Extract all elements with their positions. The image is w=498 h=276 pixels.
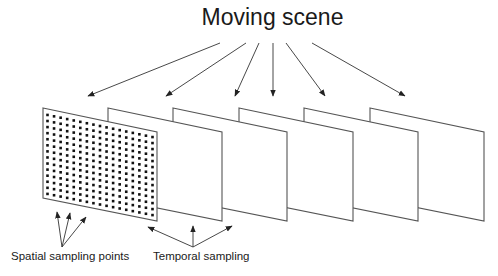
sampling-dot <box>53 188 56 191</box>
sampling-dot <box>66 130 69 133</box>
sampling-dot <box>112 164 115 167</box>
sampling-dot <box>59 159 62 162</box>
sampling-dot <box>145 212 148 215</box>
diagram-canvas <box>0 0 498 276</box>
sampling-dot <box>92 166 95 169</box>
sampling-dot <box>132 198 135 201</box>
sampling-dot <box>53 151 56 154</box>
sampling-dot <box>92 172 95 175</box>
sampling-dot <box>66 154 69 157</box>
sampling-dot <box>125 184 128 187</box>
sampling-dot <box>132 162 135 165</box>
sampling-dot <box>151 214 154 217</box>
sampling-dot <box>99 167 102 170</box>
sampling-dot <box>125 160 128 163</box>
sampling-dot <box>53 194 56 197</box>
sampling-dot <box>53 127 56 130</box>
sampling-dot <box>138 205 141 208</box>
sampling-dot <box>145 134 148 137</box>
sampling-dot <box>66 136 69 139</box>
sampling-dot <box>151 196 154 199</box>
sampling-dot <box>112 170 115 173</box>
sampling-dot <box>105 132 108 135</box>
sampling-dot <box>72 198 75 201</box>
sampling-dot <box>59 195 62 198</box>
sampling-dot <box>118 201 121 204</box>
sampling-dot <box>105 186 108 189</box>
sampling-dot <box>79 133 82 136</box>
sampling-dot <box>138 199 141 202</box>
sampling-dot <box>92 129 95 132</box>
sampling-dot <box>59 141 62 144</box>
sampling-dot <box>86 122 89 125</box>
sampling-dot <box>99 131 102 134</box>
sampling-dot <box>79 163 82 166</box>
sampling-dot <box>138 169 141 172</box>
sampling-dot <box>46 114 49 117</box>
sampling-dot <box>112 152 115 155</box>
sampling-dot <box>86 195 89 198</box>
sampling-dot <box>138 193 141 196</box>
sampling-dot <box>72 156 75 159</box>
sampling-dot <box>72 131 75 134</box>
sampling-dot <box>99 191 102 194</box>
sampling-dot <box>145 170 148 173</box>
sampling-dot <box>105 192 108 195</box>
sampling-dot <box>46 168 49 171</box>
sampling-dot <box>138 187 141 190</box>
sampling-dot <box>118 189 121 192</box>
sampling-dot <box>53 170 56 173</box>
sampling-dot <box>72 186 75 189</box>
sampling-dot <box>79 121 82 124</box>
sampling-dot <box>151 166 154 169</box>
sampling-dot <box>66 197 69 200</box>
sampling-dot <box>59 122 62 125</box>
sampling-dot <box>138 145 141 148</box>
sampling-dot <box>53 182 56 185</box>
sampling-dot <box>79 157 82 160</box>
sampling-dot <box>72 180 75 183</box>
sampling-dot <box>59 153 62 156</box>
sampling-dot <box>72 137 75 140</box>
sampling-dot <box>66 178 69 181</box>
sampling-dot <box>66 142 69 145</box>
sampling-dot <box>132 180 135 183</box>
sampling-dot <box>138 139 141 142</box>
sampling-dot <box>72 125 75 128</box>
sampling-dot <box>92 190 95 193</box>
sampling-dot <box>92 160 95 163</box>
sampling-dot <box>145 146 148 149</box>
sampling-dot <box>105 198 108 201</box>
sampling-dot <box>53 133 56 136</box>
sampling-dot <box>86 134 89 137</box>
sampling-dot <box>151 190 154 193</box>
sampling-dot <box>53 139 56 142</box>
temporal-sampling-label: Temporal sampling <box>153 250 250 262</box>
sampling-dot <box>99 149 102 152</box>
sampling-dot <box>112 140 115 143</box>
sampling-dot <box>112 146 115 149</box>
sampling-dot <box>132 168 135 171</box>
sampling-dot <box>125 154 128 157</box>
diagram-title: Moving scene <box>0 4 498 31</box>
sampling-dot <box>79 187 82 190</box>
sampling-dot <box>99 185 102 188</box>
sampling-dot <box>46 193 49 196</box>
temporal-arrow-icon <box>148 227 193 247</box>
sampling-dot <box>72 119 75 122</box>
sampling-dot <box>112 206 115 209</box>
sampling-dot <box>125 142 128 145</box>
sampling-dot <box>99 155 102 158</box>
sampling-dot <box>66 184 69 187</box>
sampling-dot <box>46 156 49 159</box>
sampling-dot <box>132 156 135 159</box>
sampling-dot <box>145 158 148 161</box>
sampling-dot <box>66 191 69 194</box>
temporal-arrow-icon <box>193 226 232 247</box>
sampling-dot <box>72 149 75 152</box>
sampling-dot <box>92 147 95 150</box>
sampling-dot <box>125 130 128 133</box>
sampling-dot <box>132 132 135 135</box>
sampling-dot <box>112 176 115 179</box>
sampling-dot <box>105 162 108 165</box>
